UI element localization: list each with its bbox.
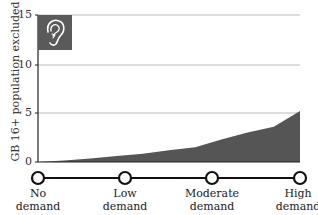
stage-label-moderate-demand: Moderate demand xyxy=(182,187,242,213)
stage-label-high-demand: High demand xyxy=(268,187,318,213)
stage-marker-moderate-demand xyxy=(206,172,218,184)
stage-label-no-demand: No demand xyxy=(8,187,68,213)
y-tick-0: 0 xyxy=(16,155,32,168)
stage-marker-no-demand xyxy=(32,172,44,184)
y-tick-15: 15 xyxy=(16,8,32,21)
area-chart xyxy=(0,0,318,215)
stage-marker-low-demand xyxy=(119,172,131,184)
y-axis-label: GB 16+ population excluded (%) xyxy=(9,12,22,162)
ear-icon xyxy=(38,15,72,50)
y-tick-10: 10 xyxy=(16,58,32,71)
area-series xyxy=(38,111,300,162)
stage-marker-high-demand xyxy=(294,172,306,184)
y-tick-5: 5 xyxy=(16,106,32,119)
stage-label-low-demand: Low demand xyxy=(95,187,155,213)
